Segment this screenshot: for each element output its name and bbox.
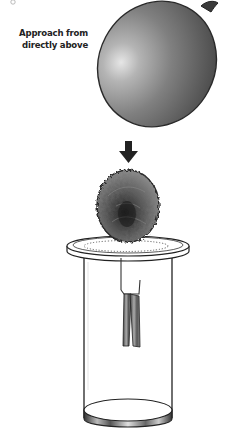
balloon [76,0,230,148]
wire-hook [121,258,140,294]
corner-mark [11,0,15,4]
down-arrow-icon [119,141,138,163]
foil-leaves [123,294,140,347]
balloon-knot [201,1,218,12]
foil-ball [97,170,159,242]
electroscope-diagram [0,0,230,441]
